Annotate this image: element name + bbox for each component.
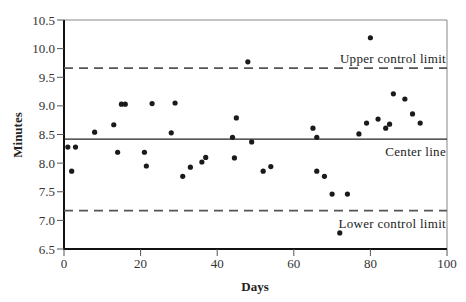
x-tick-label: 80 bbox=[364, 256, 377, 271]
data-point bbox=[232, 155, 237, 160]
data-point bbox=[391, 91, 396, 96]
y-tick-label: 8.0 bbox=[39, 156, 55, 171]
data-point bbox=[144, 163, 149, 168]
data-point bbox=[314, 169, 319, 174]
data-point bbox=[73, 144, 78, 149]
y-axis-title: Minutes bbox=[10, 112, 25, 158]
data-point bbox=[368, 35, 373, 40]
data-point bbox=[123, 102, 128, 107]
data-point bbox=[364, 120, 369, 125]
data-point bbox=[234, 115, 239, 120]
data-point bbox=[69, 169, 74, 174]
y-tick-label: 6.5 bbox=[39, 242, 55, 257]
y-tick-label: 8.5 bbox=[39, 127, 55, 142]
data-point bbox=[180, 174, 185, 179]
y-tick-label: 9.0 bbox=[39, 98, 55, 113]
data-point bbox=[199, 159, 204, 164]
data-point bbox=[387, 122, 392, 127]
data-point bbox=[402, 96, 407, 101]
data-point bbox=[383, 126, 388, 131]
x-tick-label: 20 bbox=[134, 256, 147, 271]
x-tick-label: 40 bbox=[211, 256, 224, 271]
x-tick-label: 0 bbox=[61, 256, 68, 271]
data-point bbox=[149, 101, 154, 106]
data-point bbox=[92, 130, 97, 135]
y-tick-label: 7.0 bbox=[39, 213, 55, 228]
ucl-label: Upper control limit bbox=[340, 51, 446, 66]
data-point bbox=[230, 135, 235, 140]
data-point bbox=[188, 165, 193, 170]
x-axis-title: Days bbox=[241, 279, 268, 294]
data-point bbox=[314, 135, 319, 140]
data-point bbox=[322, 174, 327, 179]
y-tick-label: 7.5 bbox=[39, 184, 55, 199]
x-tick-label: 60 bbox=[287, 256, 300, 271]
x-axis: 020406080100 bbox=[61, 249, 457, 271]
data-point bbox=[249, 139, 254, 144]
control-chart: 6.57.07.58.08.59.09.510.010.5 0204060801… bbox=[0, 0, 466, 302]
y-axis: 6.57.07.58.08.59.09.510.010.5 bbox=[32, 13, 64, 257]
data-point bbox=[142, 150, 147, 155]
y-tick-label: 9.5 bbox=[39, 70, 55, 85]
data-point bbox=[330, 191, 335, 196]
center-line-label: Center line bbox=[385, 144, 446, 159]
data-point bbox=[375, 116, 380, 121]
data-point bbox=[410, 111, 415, 116]
reference-lines bbox=[64, 68, 447, 211]
data-point bbox=[203, 155, 208, 160]
data-point bbox=[345, 191, 350, 196]
data-point bbox=[337, 230, 342, 235]
data-point bbox=[111, 122, 116, 127]
data-point bbox=[65, 144, 70, 149]
y-tick-label: 10.0 bbox=[32, 41, 55, 56]
x-tick-label: 100 bbox=[437, 256, 457, 271]
data-point bbox=[115, 150, 120, 155]
data-point bbox=[261, 169, 266, 174]
lcl-label: Lower control limit bbox=[338, 216, 446, 231]
data-point bbox=[245, 59, 250, 64]
y-tick-label: 10.5 bbox=[32, 13, 55, 28]
data-point bbox=[268, 164, 273, 169]
data-point bbox=[310, 126, 315, 131]
data-point bbox=[418, 120, 423, 125]
data-point bbox=[172, 100, 177, 105]
data-point bbox=[356, 131, 361, 136]
data-point bbox=[169, 130, 174, 135]
